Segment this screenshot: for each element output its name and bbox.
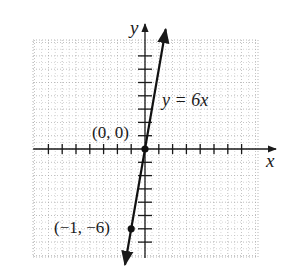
x-axis-label: x (266, 151, 274, 170)
data-point (128, 225, 135, 232)
coordinate-plane (0, 0, 287, 266)
y-axis-label: y (130, 18, 138, 37)
point-label: (−1, −6) (54, 219, 110, 236)
equation-text: y = 6x (162, 90, 208, 110)
data-point (141, 145, 148, 152)
origin-point-label: (0, 0) (92, 124, 129, 141)
equation-label: y = 6x (162, 91, 208, 109)
